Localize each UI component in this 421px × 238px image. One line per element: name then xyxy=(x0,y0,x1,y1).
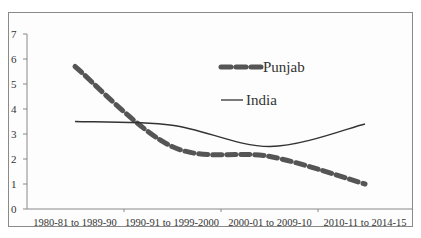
y-tick-label: 3 xyxy=(11,128,17,140)
x-category-label: 1980-81 to 1989-90 xyxy=(33,217,116,228)
series-line-punjab xyxy=(75,67,365,185)
x-category-label: 2000-01 to 2009-10 xyxy=(228,217,311,228)
x-axis: 1980-81 to 1989-901990-91 to 1999-200020… xyxy=(27,209,413,228)
y-tick-label: 6 xyxy=(11,53,17,65)
y-tick-label: 1 xyxy=(11,178,17,190)
legend: Punjab India xyxy=(221,59,305,108)
y-tick-label: 4 xyxy=(11,103,17,115)
y-tick-label: 5 xyxy=(11,78,17,90)
legend-punjab-label: Punjab xyxy=(263,59,305,75)
legend-india-label: India xyxy=(246,92,277,108)
x-category-label: 2010-11 to 2014-15 xyxy=(323,217,406,228)
y-tick-label: 2 xyxy=(11,153,17,165)
x-category-label: 1990-91 to 1999-2000 xyxy=(125,217,219,228)
line-chart: 01234567 1980-81 to 1989-901990-91 to 19… xyxy=(0,0,421,238)
y-tick-label: 0 xyxy=(11,203,17,215)
series-line-india xyxy=(75,122,365,147)
y-tick-label: 7 xyxy=(11,28,17,40)
series-lines xyxy=(75,67,365,185)
y-axis: 01234567 xyxy=(11,28,27,215)
